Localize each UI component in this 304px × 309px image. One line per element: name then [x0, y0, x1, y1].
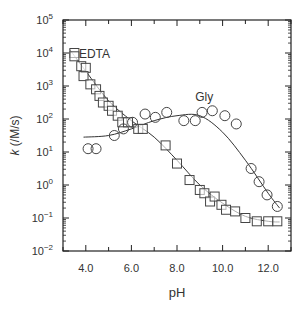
data-points	[70, 49, 282, 226]
gly-circle-marker	[207, 106, 217, 116]
edta-square-marker	[79, 72, 88, 81]
edta-square-marker	[173, 159, 182, 168]
x-tick-label: 6.0	[124, 262, 139, 274]
y-tick-label: 103	[36, 78, 53, 92]
y-tick-label: 105	[36, 12, 53, 26]
y-tick-label: 104	[36, 45, 53, 59]
gly-circle-marker	[254, 177, 264, 187]
x-tick-label: 10.0	[212, 262, 233, 274]
edta-square-marker	[161, 141, 170, 150]
gly-circle-marker	[91, 144, 101, 154]
edta-square-marker	[273, 217, 282, 226]
edta-square-marker	[210, 192, 219, 201]
series-label-edta: EDTA	[79, 47, 110, 61]
y-tick-label: 10−1	[32, 210, 54, 224]
edta-square-marker	[252, 217, 261, 226]
series-label-gly: Gly	[195, 90, 213, 104]
y-tick-label: 100	[36, 177, 53, 191]
gly-circle-marker	[179, 116, 189, 126]
x-axis-label: pH	[169, 285, 186, 300]
edta-square-marker	[70, 52, 79, 61]
gly-circle-marker	[150, 112, 160, 122]
x-tick-label: 4.0	[78, 262, 93, 274]
y-tick-label: 10−2	[32, 243, 54, 257]
fit-curves	[70, 50, 280, 222]
gly-circle-marker	[83, 144, 93, 154]
edta-square-marker	[241, 214, 250, 223]
y-axis-label: k (/M/s)	[8, 116, 22, 156]
gly-circle-marker	[140, 109, 150, 119]
edta-square-marker	[138, 124, 147, 133]
gly-circle-marker	[162, 107, 172, 117]
x-tick-label: 12.0	[257, 262, 278, 274]
edta-square-marker	[231, 207, 240, 216]
edta-square-marker	[200, 189, 209, 198]
gly-circle-marker	[231, 119, 241, 129]
gly-circle-marker	[272, 201, 282, 211]
x-tick-label: 8.0	[169, 262, 184, 274]
edta-square-marker	[185, 176, 194, 185]
gly-circle-marker	[190, 116, 200, 126]
y-tick-label: 101	[36, 144, 53, 158]
y-tick-label: 102	[36, 111, 53, 125]
chart-labels: 10510410310210110010−110−24.06.08.010.01…	[8, 12, 279, 300]
edta-square-marker	[81, 63, 90, 72]
gly-circle-marker	[197, 107, 207, 117]
chart: 10510410310210110010−110−24.06.08.010.01…	[0, 0, 304, 309]
gly-circle-marker	[220, 111, 230, 121]
edta-square-marker	[264, 217, 273, 226]
edta-square-marker	[222, 205, 231, 214]
